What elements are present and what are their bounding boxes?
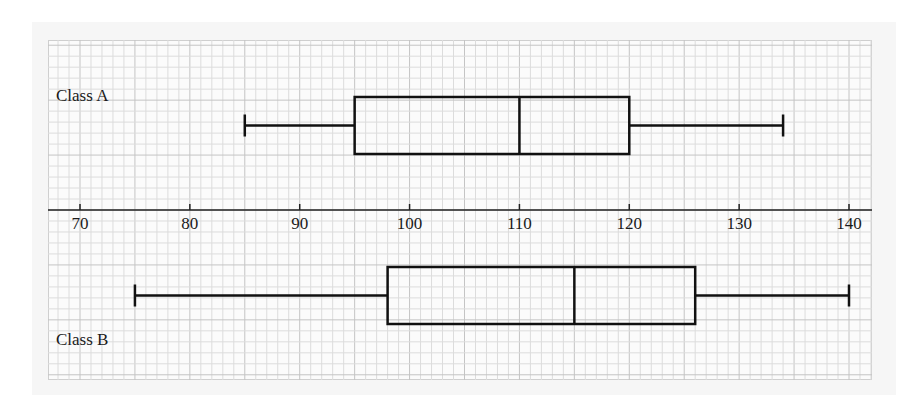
class-a-label: Class A — [56, 86, 108, 106]
tick-label: 140 — [836, 214, 862, 234]
boxplot-class-a — [245, 97, 783, 154]
tick-label: 130 — [726, 214, 752, 234]
tick-label: 100 — [397, 214, 423, 234]
tick-label: 120 — [617, 214, 643, 234]
tick-label: 80 — [181, 214, 198, 234]
tick-label: 70 — [72, 214, 89, 234]
tick-label: 90 — [291, 214, 308, 234]
boxplot-chart — [0, 0, 921, 403]
tick-label: 110 — [507, 214, 532, 234]
class-b-label: Class B — [56, 330, 108, 350]
